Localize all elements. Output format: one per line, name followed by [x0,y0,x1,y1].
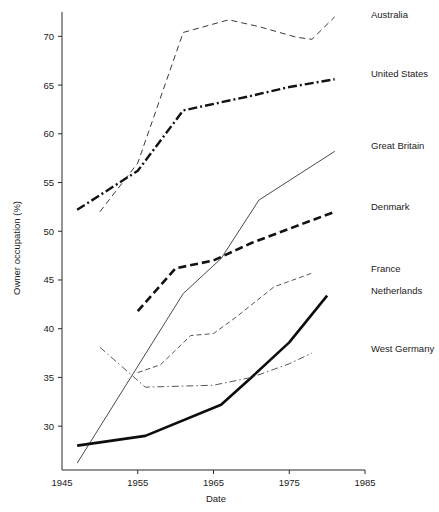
y-tick-label: 35 [43,372,54,383]
y-tick-label: 30 [43,421,54,432]
series-label-france: France [371,263,401,274]
y-tick-label: 45 [43,274,54,285]
axes: 303540455055606570 19451955196519751985 [43,12,375,488]
y-tick-label: 40 [43,323,54,334]
x-axis-ticks: 19451955196519751985 [51,470,375,488]
series-label-netherlands: Netherlands [371,285,422,296]
series-label-australia: Australia [371,9,409,20]
series-line-netherlands [77,296,327,446]
y-axis-title: Owner occupation (%) [11,201,22,295]
y-tick-label: 60 [43,128,54,139]
series-line-australia [100,17,335,212]
line-chart: 303540455055606570 19451955196519751985 … [0,0,439,512]
series-labels-group: AustraliaUnited StatesGreat BritainDenma… [371,9,434,354]
series-line-denmark [138,212,335,311]
series-label-west-germany: West Germany [371,343,434,354]
series-line-united-states [77,79,335,210]
data-series-group [77,17,335,463]
series-label-great-britain: Great Britain [371,140,424,151]
series-label-denmark: Denmark [371,201,410,212]
x-axis-title: Date [206,493,226,504]
series-line-france [138,273,312,372]
x-tick-label: 1945 [51,477,72,488]
x-tick-label: 1955 [127,477,148,488]
y-tick-label: 65 [43,80,54,91]
chart-figure: 303540455055606570 19451955196519751985 … [0,0,439,512]
series-label-united-states: United States [371,68,428,79]
y-tick-label: 55 [43,177,54,188]
axis-lines [62,12,365,470]
series-line-west-germany [100,347,312,387]
y-axis-ticks: 303540455055606570 [43,31,62,432]
x-tick-label: 1965 [203,477,224,488]
y-tick-label: 70 [43,31,54,42]
y-tick-label: 50 [43,226,54,237]
x-tick-label: 1985 [354,477,375,488]
x-tick-label: 1975 [279,477,300,488]
series-line-great-britain [77,151,335,463]
